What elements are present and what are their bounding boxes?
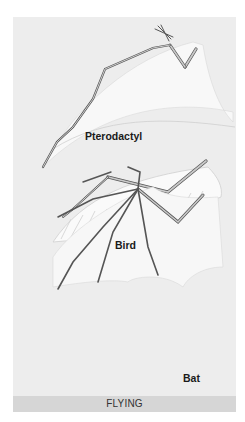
wing-illustrations	[13, 17, 236, 412]
figure-caption-band: FLYING	[13, 396, 236, 412]
pterodactyl-membrane	[43, 42, 233, 167]
label-bat: Bat	[183, 372, 200, 384]
wing-comparison-panel: Pterodactyl Bird Bat	[13, 17, 236, 412]
label-bird: Bird	[115, 239, 136, 251]
label-pterodactyl: Pterodactyl	[85, 130, 142, 142]
